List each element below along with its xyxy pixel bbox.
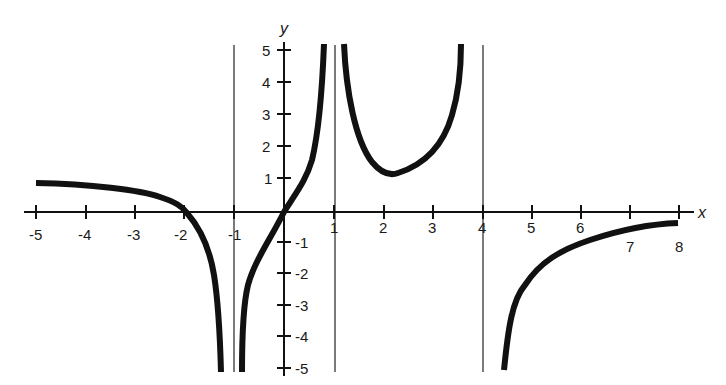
y-tick-label: -1 (295, 234, 308, 251)
x-axis: x -5 -4 -3 -2 -1 1 2 3 4 5 6 7 8 (24, 204, 707, 255)
x-tick-label: -5 (29, 226, 42, 243)
y-tick-label: 4 (262, 74, 270, 91)
y-axis: y 5 4 3 2 1 -1 -2 -3 -4 -5 (262, 20, 308, 377)
y-tick-label: -4 (295, 328, 308, 345)
x-tick-label: -4 (78, 226, 91, 243)
curve-branch-right (504, 223, 678, 370)
x-tick-label: 8 (675, 238, 683, 255)
y-tick-label: -3 (295, 297, 308, 314)
curve-branch-upper (344, 44, 461, 174)
x-tick-label: -3 (127, 226, 140, 243)
x-tick-label: 7 (626, 238, 634, 255)
y-axis-label: y (279, 20, 289, 37)
x-axis-label: x (697, 204, 707, 221)
x-tick-label: 2 (379, 219, 387, 236)
x-tick-label: 1 (330, 219, 338, 236)
y-tick-label: 1 (264, 170, 272, 187)
y-tick-label: 3 (262, 106, 270, 123)
y-tick-label: -2 (295, 265, 308, 282)
function-graph: x -5 -4 -3 -2 -1 1 2 3 4 5 6 7 8 y 5 4 (0, 0, 726, 385)
x-tick-label: 5 (527, 219, 535, 236)
y-tick-label: 5 (262, 42, 270, 59)
x-tick-label: -1 (228, 226, 241, 243)
x-tick-label: 3 (428, 219, 436, 236)
y-tick-label: 2 (262, 138, 270, 155)
x-tick-label: -2 (174, 226, 187, 243)
x-tick-label: 4 (478, 219, 486, 236)
x-tick-label: 6 (576, 219, 584, 236)
y-tick-label: -5 (295, 360, 308, 377)
